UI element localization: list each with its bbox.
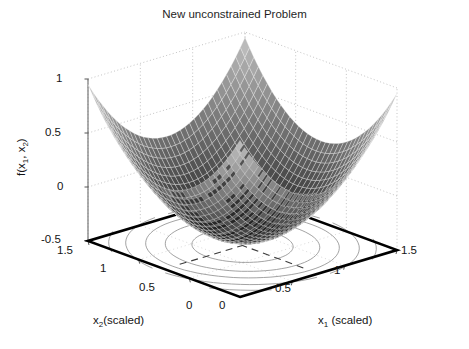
- x2-tick-0: 0: [186, 300, 192, 312]
- x1-axis-label: x1 (scaled): [318, 315, 372, 329]
- x1-label-tail: (scaled): [328, 314, 372, 326]
- z-tick-1: 1: [56, 73, 62, 85]
- z-label-sub2: 2: [21, 142, 30, 146]
- z-tick-0-5: 0.5: [45, 127, 61, 139]
- z-tick-0: 0: [57, 181, 63, 193]
- z-label-tail: ): [15, 138, 27, 142]
- x2-label-tail: (scaled): [103, 314, 144, 326]
- x1-tick-0: 0: [219, 300, 225, 312]
- surface-plot-3d: [0, 0, 469, 349]
- z-label-mid: , x: [15, 147, 27, 159]
- z-axis-label: f(x1, x2): [16, 125, 30, 189]
- x1-tick-1: 1: [334, 265, 340, 277]
- x2-tick-1: 1: [100, 263, 106, 275]
- z-label-sub1: 1: [21, 159, 30, 163]
- figure-canvas: New unconstrained Problem 1 0.5 0 -0.5 f…: [0, 0, 469, 349]
- x2-tick-0-5: 0.5: [139, 282, 155, 294]
- x1-tick-1-5: 1.5: [401, 245, 417, 257]
- x1-tick-0-5: 0.5: [275, 283, 291, 295]
- z-label-main: f(x: [15, 163, 27, 176]
- surface-mesh: [88, 37, 397, 244]
- x2-tick-1-5: 1.5: [57, 245, 73, 257]
- x2-axis-label: x2(scaled): [93, 315, 144, 329]
